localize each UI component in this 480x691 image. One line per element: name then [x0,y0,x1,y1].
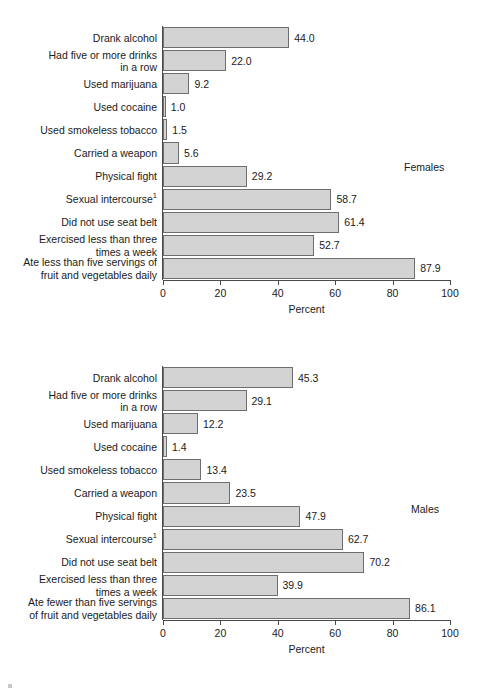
axis-tick-label: 20 [215,287,227,299]
category-label: Ate fewer than five servings of fruit an… [0,596,157,621]
bar-rows-males: Drank alcohol45.3Had five or more drinks… [163,366,450,620]
bar-row: Drank alcohol44.0 [163,26,450,49]
bar-value-label: 44.0 [294,32,314,44]
bar [163,142,179,163]
axis-tick [220,280,221,285]
axis-tick [335,280,336,285]
bar-row: Used marijuana12.2 [163,412,450,435]
bar-value-label: 87.9 [420,262,440,274]
corner-mark [8,684,12,688]
axis-tick-label: 20 [215,627,227,639]
axis-tick-label: 60 [329,627,341,639]
footnote-marker: 1 [153,191,157,200]
axis-tick-label: 40 [272,287,284,299]
bar-row: Exercised less than three times a week39… [163,574,450,597]
bar [163,258,415,279]
category-label: Sexual intercourse1 [0,533,157,546]
bar [163,598,410,619]
category-label: Physical fight [0,510,157,523]
axis-tick [335,620,336,625]
bar [163,119,167,140]
axis-tick [450,620,451,625]
bar-value-label: 1.5 [172,124,187,136]
bar [163,27,289,48]
bar-row: Had five or more drinks in a row29.1 [163,389,450,412]
bar [163,166,247,187]
bar-value-label: 1.0 [171,101,186,113]
category-label: Used marijuana [0,417,157,430]
bar [163,212,339,233]
figure-root: { "figure": { "panels": [ { "id": "femal… [0,0,480,691]
bar-value-label: 29.2 [252,170,272,182]
chart-panel-males: Drank alcohol45.3Had five or more drinks… [0,339,480,691]
category-label: Drank alcohol [0,371,157,384]
bar-value-label: 39.9 [283,579,303,591]
category-label: Drank alcohol [0,31,157,44]
value-axis-males: 020406080100 [163,620,450,621]
axis-tick [163,280,164,285]
bar-row: Used smokeless tobacco13.4 [163,458,450,481]
bar [163,367,293,388]
axis-tick [163,620,164,625]
category-label: Carried a weapon [0,487,157,500]
bar-value-label: 23.5 [235,487,255,499]
category-label: Used marijuana [0,77,157,90]
bar [163,436,167,457]
bar-row: Used smokeless tobacco1.5 [163,118,450,141]
bar-row: Sexual intercourse158.7 [163,188,450,211]
bar-row: Carried a weapon23.5 [163,481,450,504]
bar-value-label: 45.3 [298,372,318,384]
bar-row: Used cocaine1.0 [163,95,450,118]
bar-value-label: 70.2 [369,556,389,568]
plot-area-females: Drank alcohol44.0Had five or more drinks… [163,26,450,280]
axis-tick [278,620,279,625]
category-label: Did not use seat belt [0,216,157,229]
bar [163,482,230,503]
axis-title-percent: Percent [163,303,450,315]
category-label: Used cocaine [0,441,157,454]
axis-tick [220,620,221,625]
category-label: Exercised less than three times a week [0,233,157,258]
bar [163,552,364,573]
axis-title-percent: Percent [163,643,450,655]
value-axis-females: 020406080100 [163,280,450,281]
category-label: Physical fight [0,170,157,183]
axis-tick [393,620,394,625]
bar-value-label: 61.4 [344,216,364,228]
bar [163,506,300,527]
bar [163,50,226,71]
axis-tick-label: 100 [441,627,459,639]
bar-value-label: 5.6 [184,147,199,159]
axis-tick-label: 0 [160,627,166,639]
bar-row: Had five or more drinks in a row22.0 [163,49,450,72]
category-label: Exercised less than three times a week [0,573,157,598]
category-label: Did not use seat belt [0,556,157,569]
axis-tick [393,280,394,285]
bar [163,529,343,550]
category-label: Used cocaine [0,101,157,114]
bar [163,96,166,117]
category-label: Ate less than five servings of fruit and… [0,256,157,281]
bar [163,235,314,256]
axis-tick-label: 60 [329,287,341,299]
bar [163,390,247,411]
bar-rows-females: Drank alcohol44.0Had five or more drinks… [163,26,450,280]
bar [163,459,201,480]
category-label: Sexual intercourse1 [0,193,157,206]
bar-value-label: 62.7 [348,533,368,545]
bar-row: Used marijuana9.2 [163,72,450,95]
bar-value-label: 12.2 [203,418,223,430]
bar-row: Exercised less than three times a week52… [163,234,450,257]
bar-value-label: 13.4 [206,464,226,476]
bar-row: Ate fewer than five servings of fruit an… [163,597,450,620]
axis-tick-label: 80 [387,287,399,299]
axis-tick [278,280,279,285]
plot-area-males: Drank alcohol45.3Had five or more drinks… [163,366,450,620]
bar-row: Sexual intercourse162.7 [163,528,450,551]
bar-value-label: 9.2 [194,78,209,90]
bar-row: Used cocaine1.4 [163,435,450,458]
bar [163,575,278,596]
axis-tick-label: 100 [441,287,459,299]
axis-tick-label: 0 [160,287,166,299]
category-label: Had five or more drinks in a row [0,388,157,413]
